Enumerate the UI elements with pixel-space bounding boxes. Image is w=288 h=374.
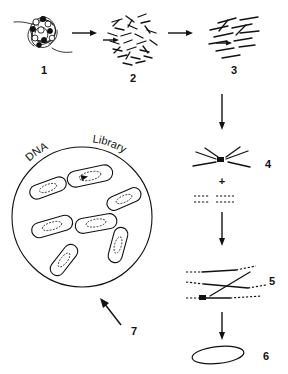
- petri-dish: DNA Library: [12, 132, 152, 287]
- step-4-fragments-plus-adapters: +: [193, 147, 250, 202]
- dish-label-dna: DNA: [23, 140, 50, 164]
- step-label-6: 6: [263, 350, 269, 362]
- step-label-1: 1: [41, 64, 47, 76]
- dish-label-library: Library: [92, 132, 129, 155]
- step-label-3: 3: [231, 64, 237, 76]
- colony: [66, 163, 114, 188]
- colony: [47, 242, 80, 279]
- colony: [28, 175, 68, 201]
- plus-sign: +: [219, 175, 225, 187]
- colony: [105, 185, 144, 212]
- step-6-vector-construct: [191, 344, 244, 366]
- step-label-5: 5: [269, 275, 275, 287]
- adapter-oligos: [194, 196, 234, 202]
- arrow-4-to-5: [219, 212, 225, 246]
- step-5-adapter-ligated-fragments: [186, 266, 266, 300]
- colony: [30, 213, 75, 239]
- step-label-4: 4: [265, 158, 272, 170]
- colony: [74, 212, 118, 234]
- diagram-canvas: 1 2: [0, 0, 288, 374]
- colony: [107, 226, 130, 264]
- arrow-6-to-dish: [100, 298, 121, 325]
- arrow-1-to-2: [72, 30, 97, 36]
- step-label-7: 7: [131, 325, 137, 337]
- step-label-2: 2: [130, 72, 136, 84]
- arrow-3-to-4: [219, 94, 225, 130]
- step-3-fragment-cloud-sparse: [209, 17, 259, 58]
- step-1-chromatin-coil: [14, 16, 72, 52]
- arrow-5-to-6: [219, 312, 225, 340]
- arrow-2-to-3: [168, 30, 193, 36]
